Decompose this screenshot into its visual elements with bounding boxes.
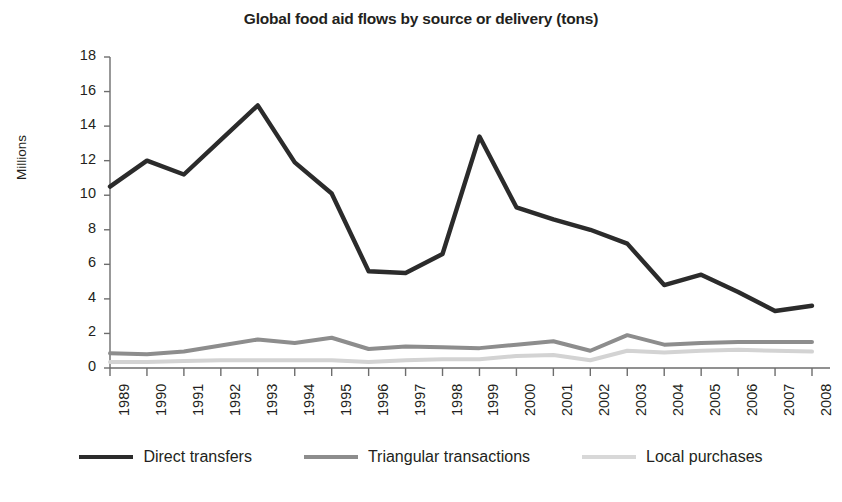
x-tick-label: 2008 (818, 384, 834, 416)
chart-figure: Global food aid flows by source or deliv… (0, 0, 842, 502)
legend-swatch-icon (582, 455, 636, 459)
legend-item[interactable]: Direct transfers (79, 448, 251, 466)
legend-label: Local purchases (646, 448, 763, 466)
y-tick-label: 6 (62, 254, 96, 270)
x-tick-label: 1999 (485, 384, 501, 416)
series-line (110, 105, 812, 311)
x-tick-label: 2003 (633, 384, 649, 416)
y-tick-label: 16 (62, 82, 96, 98)
y-axis-label: Millions (14, 135, 29, 180)
legend-label: Triangular transactions (368, 448, 530, 466)
x-tick-label: 1991 (190, 384, 206, 416)
chart-plot-area (0, 0, 842, 502)
x-tick-label: 1997 (412, 384, 428, 416)
legend-swatch-icon (304, 455, 358, 459)
x-tick-label: 2005 (707, 384, 723, 416)
legend-item[interactable]: Triangular transactions (304, 448, 530, 466)
y-tick-label: 8 (62, 220, 96, 236)
x-tick-label: 2006 (744, 384, 760, 416)
x-tick-label: 1996 (375, 384, 391, 416)
y-tick-label: 4 (62, 289, 96, 305)
y-tick-label: 12 (62, 151, 96, 167)
x-tick-label: 1993 (264, 384, 280, 416)
x-tick-label: 2004 (670, 384, 686, 416)
x-tick-label: 1992 (227, 384, 243, 416)
x-tick-label: 2002 (596, 384, 612, 416)
y-tick-label: 14 (62, 116, 96, 132)
x-tick-label: 1998 (449, 384, 465, 416)
y-tick-label: 18 (62, 47, 96, 63)
x-tick-label: 1990 (153, 384, 169, 416)
y-tick-label: 10 (62, 185, 96, 201)
y-tick-label: 2 (62, 323, 96, 339)
legend-item[interactable]: Local purchases (582, 448, 763, 466)
legend-swatch-icon (79, 455, 133, 459)
x-tick-label: 1994 (301, 384, 317, 416)
legend-label: Direct transfers (143, 448, 251, 466)
x-tick-label: 2000 (522, 384, 538, 416)
y-tick-label: 0 (62, 358, 96, 374)
chart-legend: Direct transfersTriangular transactionsL… (0, 448, 842, 466)
series-line (110, 350, 812, 362)
x-tick-label: 2007 (781, 384, 797, 416)
x-tick-label: 1995 (338, 384, 354, 416)
x-tick-label: 1989 (116, 384, 132, 416)
x-tick-label: 2001 (559, 384, 575, 416)
